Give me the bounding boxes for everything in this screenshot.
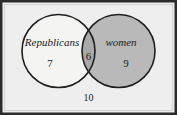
set-label-right: women bbox=[105, 36, 137, 48]
count-left-only: 7 bbox=[47, 57, 53, 69]
count-intersection: 6 bbox=[86, 50, 92, 62]
venn-diagram-figure: Republicans women 7 6 9 10 bbox=[0, 0, 177, 115]
count-right-only: 9 bbox=[123, 57, 129, 69]
set-label-left: Republicans bbox=[24, 36, 79, 48]
count-outside: 10 bbox=[84, 92, 94, 103]
